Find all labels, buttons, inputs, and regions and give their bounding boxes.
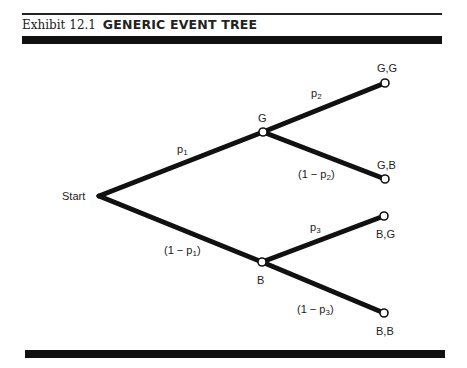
node-gg — [381, 79, 389, 87]
prob-label-p2: p2 — [311, 87, 322, 101]
tree-branches — [99, 83, 385, 313]
node-gg-label: G,G — [377, 62, 397, 74]
node-gb-label: G,B — [377, 159, 396, 171]
prob-label-p1: p1 — [177, 143, 188, 157]
node-bg-label: B,G — [376, 228, 395, 240]
start-label: Start — [62, 190, 85, 202]
node-b-label: B — [257, 274, 264, 286]
branch-g-gg — [263, 83, 385, 132]
node-g — [259, 128, 267, 136]
footer-bar — [25, 350, 445, 358]
branch-start-g — [99, 132, 263, 196]
node-gb — [381, 175, 389, 183]
node-bg — [380, 212, 388, 220]
node-bb — [380, 309, 388, 317]
node-b — [258, 258, 266, 266]
node-bb-label: B,B — [376, 325, 394, 337]
prob-label-1-minus-p3: (1 − p3) — [297, 303, 334, 317]
prob-label-1-minus-p2: (1 − p2) — [298, 168, 335, 182]
event-tree-diagram: Start G B G,G G,B B,G B,B p1 (1 − p1) p2… — [0, 0, 467, 368]
branch-b-bg — [262, 216, 384, 262]
node-g-label: G — [258, 112, 267, 124]
prob-label-p3: p3 — [310, 221, 321, 235]
prob-label-1-minus-p1: (1 − p1) — [164, 244, 201, 258]
